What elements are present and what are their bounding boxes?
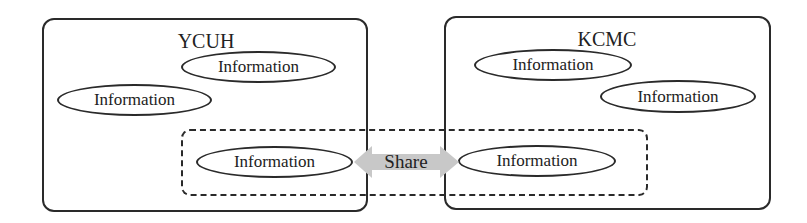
share-label: Share xyxy=(384,151,427,173)
double-headed-arrow-icon xyxy=(0,0,807,223)
